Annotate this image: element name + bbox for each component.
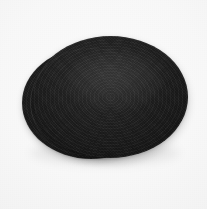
product-photo: [0, 0, 207, 209]
upper-placemat: [33, 36, 188, 158]
coiled-rings-texture: [33, 36, 188, 158]
